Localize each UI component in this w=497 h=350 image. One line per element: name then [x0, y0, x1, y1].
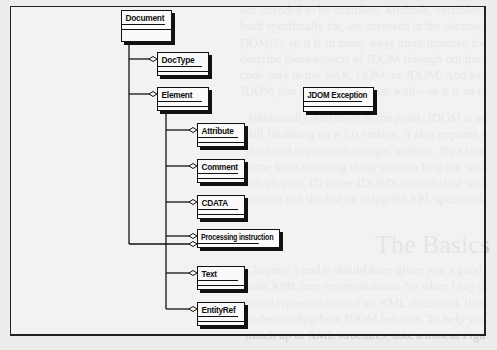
class-cdata: CDATA: [197, 195, 245, 219]
class-entityref: EntityRef: [197, 302, 245, 326]
methods-compartment: [198, 215, 244, 219]
methods-compartment: [198, 179, 244, 183]
class-jdom-exception: JDOM Exception: [303, 87, 374, 112]
methods-compartment: [304, 107, 373, 111]
class-name: CDATA: [198, 196, 238, 210]
methods-compartment: [198, 322, 244, 326]
class-name: DocType: [158, 53, 202, 67]
attributes-compartment: [198, 244, 279, 248]
class-name: Element: [158, 88, 202, 102]
class-name: Processing instruction: [198, 230, 259, 244]
connector-lines: [0, 0, 497, 350]
class-processing-instruction: Processing instruction: [197, 229, 280, 248]
class-name: Text: [198, 267, 238, 281]
class-comment: Comment: [197, 159, 245, 183]
methods-compartment: [198, 286, 244, 290]
class-name: EntityRef: [198, 303, 238, 317]
class-document: Document: [121, 10, 172, 42]
methods-compartment: [122, 30, 171, 34]
class-name: Document: [122, 11, 165, 25]
methods-compartment: [158, 72, 208, 76]
class-name: JDOM Exception: [304, 88, 362, 102]
methods-compartment: [158, 107, 208, 111]
class-attribute: Attribute: [197, 123, 245, 147]
class-element: Element: [157, 87, 209, 111]
class-name: Comment: [198, 160, 238, 174]
class-text: Text: [197, 266, 245, 290]
methods-compartment: [198, 143, 244, 147]
class-name: Attribute: [198, 124, 238, 138]
class-doctype: DocType: [157, 52, 209, 76]
